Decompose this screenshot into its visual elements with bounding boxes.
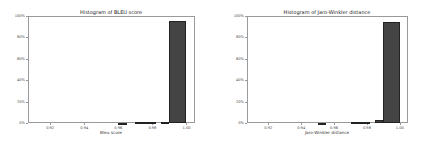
x-tick xyxy=(334,123,335,125)
y-tick-label: 20% xyxy=(230,100,244,104)
jaro-winkler-histogram: Histogram of Jaro-Winkler distance Jaro-… xyxy=(0,0,421,143)
y-tick-label: 40% xyxy=(230,78,244,82)
histogram-bar xyxy=(375,120,383,123)
x-tick-label: 0.92 xyxy=(264,126,272,130)
x-tick xyxy=(400,123,401,125)
x-tick xyxy=(268,123,269,125)
y-tick xyxy=(245,80,247,81)
x-tick-label: 0.96 xyxy=(330,126,338,130)
y-tick-label: 80% xyxy=(230,35,244,39)
y-tick-label: 0% xyxy=(230,121,244,125)
x-tick-label: 0.94 xyxy=(297,126,305,130)
y-tick xyxy=(245,123,247,124)
y-tick xyxy=(245,16,247,17)
y-tick-label: 60% xyxy=(230,57,244,61)
histogram-bar xyxy=(351,122,371,124)
y-tick xyxy=(245,102,247,103)
x-tick xyxy=(301,123,302,125)
histogram-bar xyxy=(318,123,326,125)
chart-title: Histogram of Jaro-Winkler distance xyxy=(284,9,371,15)
y-tick-label: 100% xyxy=(230,14,244,18)
histogram-bar xyxy=(383,22,399,123)
y-tick xyxy=(245,37,247,38)
x-tick-label: 0.98 xyxy=(363,126,371,130)
x-axis-label: Jaro-Winkler distance xyxy=(305,130,349,135)
x-tick-label: 1.00 xyxy=(396,126,404,130)
y-tick xyxy=(245,59,247,60)
